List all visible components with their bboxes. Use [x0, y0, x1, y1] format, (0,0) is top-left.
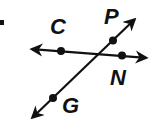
label-p: P	[104, 6, 119, 28]
label-g: G	[62, 95, 79, 117]
label-n: N	[110, 67, 126, 89]
point-n	[118, 52, 126, 60]
point-p	[109, 37, 117, 45]
line-cn	[32, 49, 146, 58]
label-c: C	[50, 16, 66, 38]
point-c	[57, 47, 65, 55]
point-g	[49, 94, 57, 102]
